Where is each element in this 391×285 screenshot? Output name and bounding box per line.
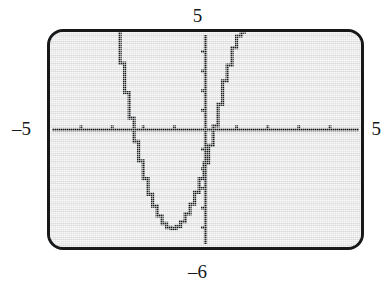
y-max-label: 5 bbox=[4, 6, 391, 25]
y-axis bbox=[201, 35, 206, 244]
x-min-label: –5 bbox=[12, 119, 31, 138]
graphing-calculator-figure: 5 –5 5 –6 bbox=[0, 0, 391, 285]
y-min-label: –6 bbox=[4, 262, 391, 281]
calculator-screen bbox=[47, 29, 364, 250]
plot-area bbox=[50, 32, 361, 247]
x-max-label: 5 bbox=[372, 119, 382, 138]
